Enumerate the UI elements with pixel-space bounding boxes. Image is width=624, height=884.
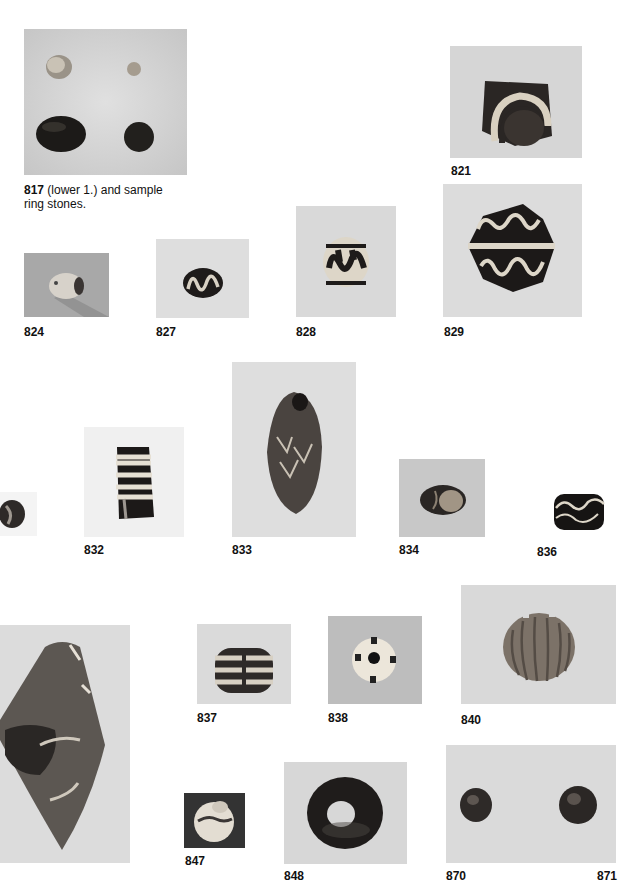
caption-829: 829: [444, 325, 464, 339]
photo-821-bead: [450, 46, 582, 158]
photo-828-bead: [296, 206, 396, 317]
photo-832-bead: [84, 427, 184, 537]
caption-821: 821: [451, 164, 471, 178]
photo-824-bead: [24, 253, 109, 317]
caption-834: 834: [399, 543, 419, 557]
caption-848: 848: [284, 869, 304, 883]
photo-848-ring-bead: [284, 762, 407, 864]
caption-828: 828: [296, 325, 316, 339]
photo-large-bicone-bead: [0, 625, 130, 863]
photo-partial-bead-left-edge: [0, 492, 37, 536]
photo-840-melon-bead: [461, 585, 616, 704]
caption-837: 837: [197, 711, 217, 725]
photo-833-bead: [232, 362, 356, 537]
photo-837-bead: [197, 624, 291, 704]
caption-817: 817 (lower 1.) and sample ring stones.: [24, 183, 204, 211]
caption-833: 833: [232, 543, 252, 557]
caption-847: 847: [185, 854, 205, 868]
photo-827-bead: [156, 239, 249, 318]
caption-824: 824: [24, 325, 44, 339]
photo-834-bead: [399, 459, 485, 537]
photo-829-bead: [443, 184, 582, 317]
caption-840: 840: [461, 713, 481, 727]
caption-871: 871: [597, 869, 617, 883]
caption-870: 870: [446, 869, 466, 883]
caption-827: 827: [156, 325, 176, 339]
photo-817-ring-stones: [24, 29, 187, 175]
cropped-header-text: [0, 0, 624, 4]
photo-847-bead: [184, 793, 245, 848]
photo-838-bead: [328, 616, 422, 704]
photo-836-bead: [550, 490, 608, 535]
photo-870-871-beads: [446, 745, 616, 863]
caption-836: 836: [537, 545, 557, 559]
caption-832: 832: [84, 543, 104, 557]
caption-838: 838: [328, 711, 348, 725]
